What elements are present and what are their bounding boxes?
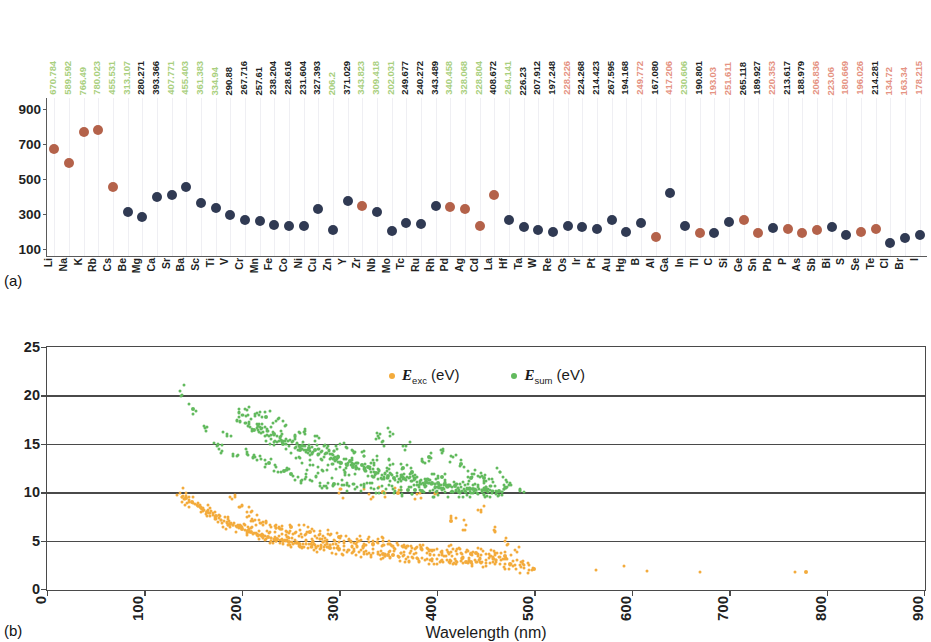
legend-swatch-icon (511, 373, 517, 379)
panel-b-data-point (433, 473, 436, 476)
panel-b-data-point (313, 439, 316, 442)
panel-b-data-point (253, 519, 256, 522)
wavelength-value-label: 290.88 (224, 67, 234, 95)
panel-b-data-point (435, 548, 438, 551)
panel-b-data-point (503, 557, 506, 560)
panel-b-data-point (305, 539, 308, 542)
wavelength-value-label: 197.248 (547, 61, 557, 95)
panel-b-data-point (196, 501, 199, 504)
panel-b-data-point (377, 487, 380, 490)
panel-b-data-point (446, 495, 449, 498)
panel-b-data-point (443, 554, 446, 557)
legend-swatch-icon (389, 373, 395, 379)
element-symbol-label: Ir (571, 258, 582, 265)
panel-a: 670.784589.592766.49780.023455.531313.10… (0, 0, 931, 310)
panel-b-data-point (420, 496, 423, 499)
panel-b-data-point (409, 545, 412, 548)
panel-b-data-point (409, 466, 412, 469)
panel-b-data-point (443, 479, 446, 482)
panel-b-data-point (273, 444, 276, 447)
panel-b-data-point (516, 550, 519, 553)
panel-b-data-point (336, 483, 339, 486)
panel-b-data-point (343, 441, 346, 444)
panel-b-data-point (301, 547, 304, 550)
wavelength-value-label: 190.801 (694, 61, 704, 95)
wavelength-value-label: 313.107 (122, 61, 132, 95)
panel-b-data-point (363, 450, 366, 453)
panel-b-data-point (179, 389, 182, 392)
panel-b-data-point (480, 548, 483, 551)
panel-a-data-point (181, 182, 191, 192)
panel-a-data-point (519, 222, 529, 232)
panel-b-data-point (264, 415, 268, 419)
panel-b-data-point (388, 480, 391, 483)
wavelength-value-label: 163.34 (899, 67, 909, 95)
panel-a-gridline (289, 98, 290, 256)
panel-b-data-point (382, 444, 385, 447)
panel-b-data-point (435, 557, 438, 560)
wavelength-value-label: 589.592 (63, 61, 73, 95)
panel-b-data-point (509, 563, 512, 566)
panel-b-data-point (388, 467, 391, 470)
wavelength-value-label: 134.72 (884, 67, 894, 95)
panel-b-data-point (490, 489, 493, 492)
panel-b-data-point (446, 485, 449, 488)
panel-a-data-point (64, 158, 74, 168)
panel-b-data-point (348, 473, 351, 476)
panel-b-data-point (383, 553, 386, 556)
panel-b-data-point (377, 491, 380, 494)
panel-b-data-point (383, 543, 386, 546)
element-symbol-label: Zn (322, 258, 333, 271)
element-symbol-label: K (72, 258, 83, 266)
panel-b-data-point (263, 459, 266, 462)
panel-b-data-point (359, 489, 362, 492)
wavelength-value-label: 340.458 (444, 61, 454, 95)
panel-b-data-point (387, 550, 390, 553)
panel-a-ytick-label: 500 (7, 171, 41, 186)
panel-b-data-point (317, 466, 320, 469)
panel-a-data-point (431, 201, 441, 211)
panel-b-data-point (259, 455, 262, 458)
panel-b-data-point (192, 495, 195, 498)
panel-b-data-point (371, 548, 374, 551)
panel-b-data-point (264, 465, 267, 468)
panel-b-data-point (254, 523, 257, 526)
panel-b-data-point (289, 452, 292, 455)
panel-b-data-point (450, 516, 453, 519)
panel-b-data-point (467, 475, 470, 478)
panel-b-data-point (418, 486, 421, 489)
panel-a-gridline (113, 98, 114, 256)
panel-b-data-point (448, 460, 451, 463)
panel-b-data-point (282, 420, 285, 423)
panel-b-data-point (247, 505, 250, 508)
panel-b-data-point (325, 485, 328, 488)
panel-b-data-point (235, 531, 238, 534)
panel-b-data-point (256, 535, 259, 538)
panel-b-data-point (311, 445, 314, 448)
panel-b-data-point (444, 472, 447, 475)
panel-b-data-point (355, 554, 358, 557)
panel-a-data-point (871, 224, 881, 234)
panel-b-data-point (622, 564, 625, 567)
panel-b-data-point (503, 565, 506, 568)
element-symbol-label: Cu (307, 258, 318, 272)
panel-b-data-point (366, 482, 369, 485)
panel-b-data-point (252, 428, 256, 432)
panel-a-gridline (890, 98, 891, 256)
panel-b-data-point (208, 515, 211, 518)
panel-a-gridline (142, 98, 143, 256)
panel-b-gridline (47, 444, 925, 445)
panel-b-data-point (405, 545, 408, 548)
panel-b-data-point (454, 517, 457, 520)
panel-a-data-point (636, 218, 646, 228)
panel-a-data-point (900, 233, 910, 243)
panel-b-data-point (261, 422, 264, 425)
panel-a-gridline (362, 98, 363, 256)
panel-b-data-point (502, 475, 505, 478)
panel-b-data-point (330, 477, 333, 480)
panel-b-data-point (471, 554, 474, 557)
panel-b-xtick-label: 0 (33, 596, 48, 604)
panel-b-xtick-label: 900 (910, 596, 925, 621)
panel-b-data-point (338, 487, 341, 490)
panel-a-data-point (739, 215, 749, 225)
